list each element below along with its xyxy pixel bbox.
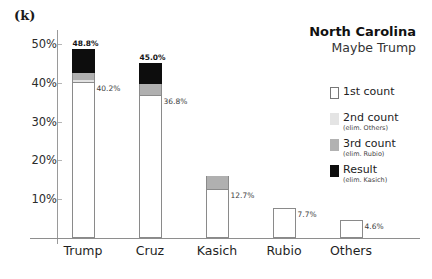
y-tick-mark [58, 199, 62, 200]
y-tick: 30% [0, 122, 57, 123]
bar-segment-result [72, 49, 95, 74]
legend-item-1st-count[interactable]: 1st count [330, 86, 395, 99]
bar-value-label-side: 4.6% [365, 222, 384, 231]
legend-item-result[interactable]: Result(elim. Kasich) [330, 164, 387, 185]
y-tick-mark [58, 44, 62, 45]
bar-segment-first-count [206, 189, 229, 238]
legend-item-3rd-count[interactable]: 3rd count(elim. Rubio) [330, 138, 396, 159]
x-axis-line [30, 238, 420, 239]
legend-item-2nd-count[interactable]: 2nd count(elim. Others) [330, 112, 398, 133]
legend-swatch-icon [330, 139, 339, 151]
legend-note: (elim. Others) [343, 124, 398, 133]
y-tick: 10% [0, 199, 57, 200]
chart-subtitle: Maybe Trump [309, 40, 416, 56]
legend-swatch-icon [330, 165, 339, 177]
legend-label: 3rd count [343, 138, 396, 150]
bar-others[interactable] [340, 220, 363, 238]
y-tick-mark [58, 83, 62, 84]
bar-segment-third-count [72, 73, 95, 79]
bar-segment-second-count [72, 80, 95, 82]
y-tick: 40% [0, 83, 57, 84]
bar-segment-first-count [273, 208, 296, 238]
y-axis-line [57, 30, 58, 244]
bar-segment-third-count [206, 176, 229, 189]
bar-segment-third-count [139, 84, 162, 95]
bar-kasich[interactable] [206, 176, 229, 238]
bar-segment-result [139, 63, 162, 84]
legend-swatch-icon [330, 113, 339, 125]
legend-note: (elim. Rubio) [343, 150, 396, 159]
y-tick-label: 20% [11, 153, 57, 167]
legend-label: 1st count [343, 86, 395, 98]
bar-value-label-side: 12.7% [231, 191, 255, 200]
y-tick-label: 40% [11, 76, 57, 90]
y-tick-label: 50% [11, 37, 57, 51]
y-tick-label: 10% [11, 192, 57, 206]
y-tick: 20% [0, 160, 57, 161]
bar-cruz[interactable] [139, 63, 162, 238]
chart-title: North Carolina [309, 24, 416, 40]
x-category-label-others: Others [311, 243, 391, 258]
legend-label: Result [343, 164, 387, 176]
bar-segment-first-count [72, 82, 95, 238]
bar-value-label-side: 36.8% [164, 97, 188, 106]
y-tick-mark [58, 122, 62, 123]
y-tick-label: 30% [11, 115, 57, 129]
bar-value-label-side: 7.7% [298, 210, 317, 219]
chart-container: (k) North Carolina Maybe Trump 10%20%30%… [0, 0, 432, 279]
bar-segment-first-count [340, 220, 363, 238]
panel-label: (k) [14, 8, 35, 23]
legend-note: (elim. Kasich) [343, 176, 387, 185]
chart-title-block: North Carolina Maybe Trump [309, 24, 416, 56]
bar-segment-first-count [139, 95, 162, 238]
bar-rubio[interactable] [273, 208, 296, 238]
bar-value-label-top: 45.0% [140, 53, 166, 62]
bar-value-label-side: 40.2% [97, 84, 121, 93]
legend-swatch-icon [330, 87, 339, 99]
legend-label: 2nd count [343, 112, 398, 124]
bar-trump[interactable] [72, 49, 95, 238]
y-tick: 50% [0, 44, 57, 45]
y-tick-mark [58, 160, 62, 161]
bar-value-label-top: 48.8% [73, 39, 99, 48]
